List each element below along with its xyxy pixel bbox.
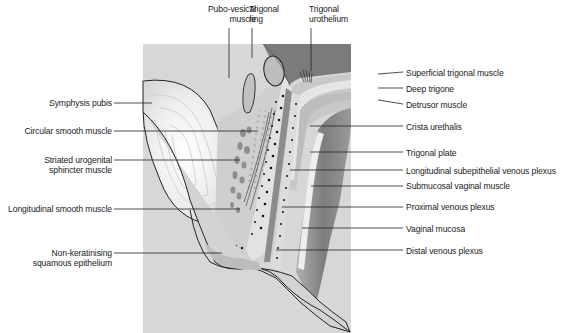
label-circular-smooth-muscle: Circular smooth muscle: [24, 126, 112, 136]
label-trigonal-ring: Trigonal ring: [249, 4, 279, 24]
label-deep-trigone: Deep trigone: [406, 84, 454, 94]
label-longitudinal-subepithelial-venous-plexus: Longitudinal subepithelial venous plexus: [406, 166, 556, 176]
label-symphysis-pubis: Symphysis pubis: [49, 98, 112, 108]
label-non-keratinising-squamous-epithelium: Non-keratinising squamous epithelium: [33, 248, 112, 268]
label-distal-venous-plexus: Distal venous plexus: [406, 246, 483, 256]
label-vaginal-mucosa: Vaginal mucosa: [406, 224, 465, 234]
urethra-cross-section-diagram: Pubo-vesical muscle Trigonal ring Trigon…: [0, 0, 567, 333]
label-longitudinal-smooth-muscle: Longitudinal smooth muscle: [8, 204, 112, 214]
label-pubo-vesical-muscle: Pubo-vesical muscle: [186, 4, 256, 24]
label-trigonal-plate: Trigonal plate: [406, 148, 456, 158]
label-crista-urethalis: Crista urethalis: [406, 122, 462, 132]
label-submucosal-vaginal-muscle: Submucosal vaginal muscle: [406, 181, 510, 191]
label-trigonal-urothelium: Trigonal urothelium: [309, 4, 348, 24]
label-proximal-venous-plexus: Proximal venous plexus: [406, 202, 495, 212]
label-striated-urogenital-sphincter-muscle: Striated urogenital sphincter muscle: [44, 155, 112, 175]
label-superficial-trigonal-muscle: Superficial trigonal muscle: [406, 68, 504, 78]
label-detrusor-muscle: Detrusor muscle: [406, 100, 467, 110]
